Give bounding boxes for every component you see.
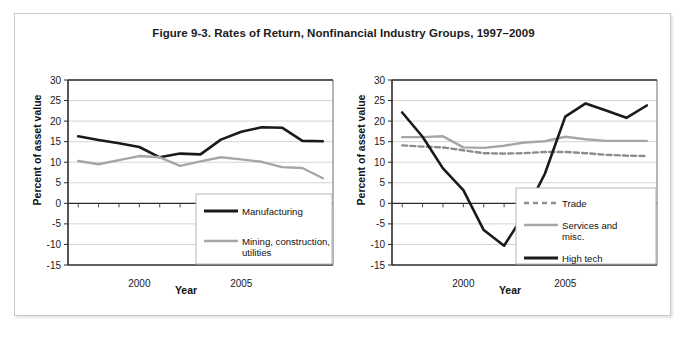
y-tick-label: -5 bbox=[376, 218, 385, 229]
y-tick-label: 25 bbox=[50, 95, 62, 106]
y-tick-label: 25 bbox=[374, 95, 386, 106]
legend-label: Services and bbox=[562, 220, 617, 231]
plot-area-right: 302520151050-5-10-1520002005TradeService… bbox=[345, 59, 665, 309]
x-tick-label: 2005 bbox=[554, 278, 577, 289]
y-tick-label: -15 bbox=[371, 260, 386, 271]
legend-label: High tech bbox=[562, 253, 603, 264]
y-tick-label: 15 bbox=[374, 136, 386, 147]
y-tick-label: 30 bbox=[50, 75, 62, 86]
y-tick-label: 10 bbox=[374, 157, 386, 168]
y-tick-label: 0 bbox=[379, 198, 385, 209]
chart-panel-right: Percent of asset value Year 302520151050… bbox=[345, 59, 665, 309]
y-tick-label: -10 bbox=[47, 239, 62, 250]
figure-frame: Figure 9-3. Rates of Return, Nonfinancia… bbox=[14, 13, 671, 316]
y-tick-label: 15 bbox=[50, 136, 62, 147]
x-tick-label: 2005 bbox=[230, 278, 253, 289]
legend-label: Manufacturing bbox=[242, 206, 303, 217]
y-tick-label: -5 bbox=[52, 218, 61, 229]
legend-label-line2: misc. bbox=[562, 231, 584, 242]
y-tick-label: 30 bbox=[374, 75, 386, 86]
plot-area-left: 302520151050-5-10-1520002005Manufacturin… bbox=[21, 59, 341, 309]
y-tick-label: -10 bbox=[371, 239, 386, 250]
y-tick-label: 5 bbox=[55, 177, 61, 188]
legend-label-line2: utilities bbox=[242, 247, 272, 258]
x-tick-label: 2000 bbox=[128, 278, 151, 289]
chart-panel-left: Percent of asset value Year 302520151050… bbox=[21, 59, 341, 309]
figure-title: Figure 9-3. Rates of Return, Nonfinancia… bbox=[15, 27, 672, 39]
y-tick-label: 5 bbox=[379, 177, 385, 188]
series-line bbox=[402, 145, 647, 156]
y-tick-label: 0 bbox=[55, 198, 61, 209]
series-line bbox=[78, 156, 323, 178]
series-line bbox=[78, 127, 323, 157]
y-tick-label: 20 bbox=[50, 116, 62, 127]
legend-label: Mining, construction, bbox=[242, 236, 330, 247]
y-tick-label: 10 bbox=[50, 157, 62, 168]
y-tick-label: -15 bbox=[47, 260, 62, 271]
legend-label: Trade bbox=[562, 198, 587, 209]
y-tick-label: 20 bbox=[374, 116, 386, 127]
x-tick-label: 2000 bbox=[452, 278, 475, 289]
